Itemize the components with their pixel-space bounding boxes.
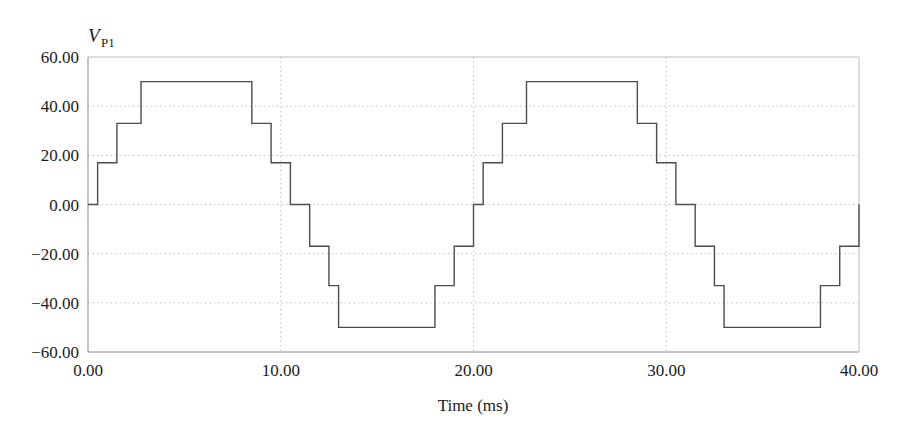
x-axis-title: Time (ms) [438, 396, 509, 415]
y-tick-label: −60.00 [31, 343, 79, 362]
x-tick-label: 40.00 [840, 361, 878, 380]
y-tick-label: −20.00 [31, 245, 79, 264]
chart-figure: V P1 −60.00−40.00−20.000.0020.0040.0060.… [0, 0, 910, 432]
y-tick-label: −40.00 [31, 294, 79, 313]
x-tick-label: 10.00 [262, 361, 300, 380]
waveform-chart: V P1 −60.00−40.00−20.000.0020.0040.0060.… [0, 0, 910, 432]
y-axis-label-subscript: P1 [101, 35, 115, 50]
x-tick-label: 0.00 [73, 361, 103, 380]
x-tick-label: 30.00 [647, 361, 685, 380]
y-tick-label: 20.00 [41, 146, 79, 165]
y-tick-label: 40.00 [41, 97, 79, 116]
y-tick-label: 0.00 [49, 196, 79, 215]
y-tick-label: 60.00 [41, 48, 79, 67]
x-tick-label: 20.00 [454, 361, 492, 380]
